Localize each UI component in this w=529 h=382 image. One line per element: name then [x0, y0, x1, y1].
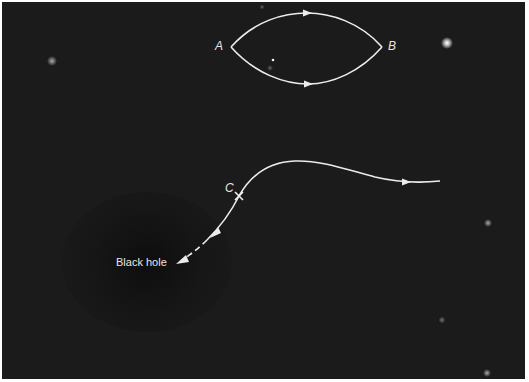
arrow-right-icon [402, 179, 411, 186]
label-black-hole: Black hole [116, 256, 167, 268]
lens-paths [231, 13, 382, 84]
star-icon [483, 369, 491, 377]
light-ray [181, 161, 440, 261]
star-icon [47, 56, 57, 66]
star-icon [484, 219, 492, 227]
label-a: A [215, 39, 223, 53]
star-icon [267, 65, 273, 71]
star-icon [441, 37, 453, 49]
arrow-right-icon [304, 81, 313, 88]
point-dot [272, 59, 275, 62]
stars [47, 5, 492, 378]
arrow-right-icon [303, 10, 312, 17]
star-icon [260, 5, 265, 10]
label-b: B [388, 39, 396, 53]
arrow-down-left-icon [210, 227, 221, 238]
cross-mark-c-icon [235, 192, 243, 200]
star-icon [439, 317, 446, 324]
diagram-canvas [0, 0, 529, 382]
light-ray-solid [207, 161, 440, 240]
lower-path-a-to-b [231, 47, 382, 84]
label-c: C [225, 181, 234, 195]
arrowhead-black-hole-icon [176, 255, 189, 264]
upper-path-a-to-b [231, 13, 382, 47]
